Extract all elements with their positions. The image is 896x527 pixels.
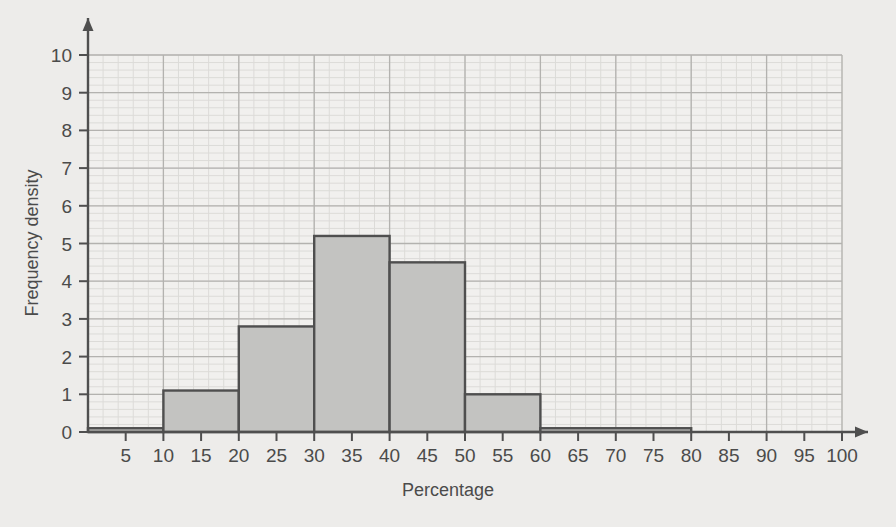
y-tick-label: 7 (61, 158, 72, 179)
x-tick-label: 15 (191, 445, 212, 466)
histogram-bar (314, 236, 389, 432)
y-tick-label: 9 (61, 83, 72, 104)
x-tick-label: 85 (718, 445, 739, 466)
y-tick-label: 5 (61, 234, 72, 255)
histogram-bar (465, 394, 540, 432)
y-tick-label: 6 (61, 196, 72, 217)
y-axis-title: Frequency density (22, 169, 42, 316)
y-tick-label: 8 (61, 120, 72, 141)
x-tick-label: 45 (417, 445, 438, 466)
x-tick-label: 95 (794, 445, 815, 466)
x-tick-label: 100 (826, 445, 858, 466)
histogram-bar (239, 326, 314, 432)
x-tick-label: 35 (341, 445, 362, 466)
y-tick-label: 0 (61, 422, 72, 443)
x-tick-label: 50 (454, 445, 475, 466)
y-tick-label: 10 (51, 45, 72, 66)
x-tick-label: 25 (266, 445, 287, 466)
x-tick-label: 55 (492, 445, 513, 466)
x-tick-label: 70 (605, 445, 626, 466)
x-tick-label: 75 (643, 445, 664, 466)
x-tick-label: 10 (153, 445, 174, 466)
histogram-bar (163, 391, 238, 432)
y-tick-label: 1 (61, 384, 72, 405)
x-tick-label: 60 (530, 445, 551, 466)
x-tick-label: 40 (379, 445, 400, 466)
x-tick-label: 65 (568, 445, 589, 466)
x-tick-label: 5 (120, 445, 131, 466)
x-tick-label: 90 (756, 445, 777, 466)
y-tick-label: 3 (61, 309, 72, 330)
x-tick-label: 20 (228, 445, 249, 466)
x-tick-label: 80 (681, 445, 702, 466)
y-tick-label: 4 (61, 271, 72, 292)
x-axis-title: Percentage (402, 480, 494, 500)
histogram-bar (390, 262, 465, 432)
histogram-chart: 5101520253035404550556065707580859095100… (0, 0, 896, 527)
chart-canvas: 5101520253035404550556065707580859095100… (0, 0, 896, 527)
x-tick-label: 30 (304, 445, 325, 466)
y-tick-label: 2 (61, 347, 72, 368)
